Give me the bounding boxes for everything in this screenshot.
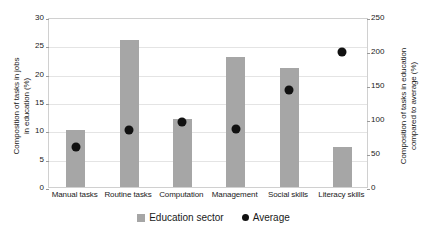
data-point-dot — [71, 143, 80, 152]
chart-legend: Education sectorAverage — [0, 212, 427, 223]
y-axis-left-tick-label: 10 — [28, 127, 44, 135]
y-axis-left-tick-label: 25 — [28, 42, 44, 50]
chart-container: Composition of tasks in jobs in educatio… — [0, 0, 427, 240]
tick-mark-right — [367, 53, 370, 54]
y-axis-left-tick-label: 15 — [28, 99, 44, 107]
data-point-dot — [285, 85, 294, 94]
plot-area — [48, 18, 368, 188]
tick-mark-right — [367, 155, 370, 156]
data-point-dot — [231, 124, 240, 133]
data-point-dot — [338, 48, 347, 57]
legend-circle-icon — [242, 214, 249, 221]
x-axis-tick-label: Literacy skills — [318, 190, 364, 199]
dot-series-average — [49, 19, 367, 187]
tick-mark-right — [367, 19, 370, 20]
y-axis-left-ticks: 051015202530 — [26, 18, 44, 188]
x-axis-tick-label: Social skills — [268, 190, 308, 199]
x-axis-tick-label: Routine tasks — [104, 190, 151, 199]
legend-label: Average — [253, 212, 290, 223]
x-axis-tick-label: Manual tasks — [52, 190, 98, 199]
y-axis-left-tick-label: 30 — [28, 14, 44, 22]
legend-label: Education sector — [149, 212, 224, 223]
data-point-dot — [178, 118, 187, 127]
y-axis-left-tick-label: 5 — [28, 156, 44, 164]
tick-mark-right — [367, 87, 370, 88]
x-axis-tick-label: Management — [212, 190, 258, 199]
y-axis-right-tick-label: 50 — [371, 150, 391, 158]
x-axis-tick-label: Computation — [159, 190, 203, 199]
legend-square-icon — [137, 214, 145, 222]
y-axis-left-tick-label: 20 — [28, 71, 44, 79]
y-axis-left-tick-label: 0 — [28, 184, 44, 192]
legend-item[interactable]: Average — [242, 212, 290, 223]
y-axis-right-ticks: 050100150200250 — [371, 18, 393, 188]
y-axis-right-tick-label: 200 — [371, 48, 391, 56]
y-axis-right-tick-label: 100 — [371, 116, 391, 124]
data-point-dot — [125, 126, 134, 135]
y-axis-right-tick-label: 250 — [371, 14, 391, 22]
y-axis-right-tick-label: 150 — [371, 82, 391, 90]
x-axis-category-labels: Manual tasksRoutine tasksComputationMana… — [48, 190, 368, 204]
tick-mark-right — [367, 121, 370, 122]
y-axis-right-tick-label: 0 — [371, 184, 391, 192]
y-axis-right-title: Composition of tasks in education compar… — [399, 26, 419, 186]
legend-item[interactable]: Education sector — [137, 212, 224, 223]
